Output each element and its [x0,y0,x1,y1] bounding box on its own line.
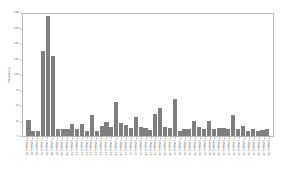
x-axis-tick-mark [62,137,63,139]
x-axis-tick-label: category 39 [212,140,215,155]
x-axis-tick-label: category 36 [197,140,200,155]
x-axis-tick-mark [180,137,181,139]
x-axis-tick-label: category 23 [133,140,136,155]
x-axis-tick-label: category 08 [59,140,62,155]
x-axis-tick-label: category 35 [192,140,195,155]
bar [119,123,123,136]
x-axis-tick-label: category 45 [241,140,244,155]
bar [260,130,264,136]
bar [221,128,225,136]
bar-chart-figure: Frequency 0255075100125150175200 categor… [0,0,289,169]
bar [56,129,60,136]
x-axis-tick-mark [131,137,132,139]
bar [95,131,99,136]
x-axis-tick-mark [32,137,33,139]
x-axis-tick: category 21 [124,137,128,169]
bar [265,129,269,136]
x-axis-tick-mark [259,137,260,139]
x-axis-tick-mark [185,137,186,139]
x-axis-tick-label: category 18 [109,140,112,155]
y-axis-tick-label: 50 [16,105,19,108]
bar [202,129,206,136]
x-axis-tick-mark [210,137,211,139]
bar [182,129,186,136]
x-axis-tick-mark [37,137,38,139]
x-axis-tick-label: category 30 [168,140,171,155]
bar [168,128,172,136]
x-axis-tick-label: category 26 [148,140,151,155]
bar [197,127,201,136]
x-axis-tick-container: category 01category 02category 03categor… [22,137,274,169]
x-axis-tick-label: category 01 [25,140,28,155]
bar [100,126,104,136]
x-axis-tick-label: category 07 [54,140,57,155]
x-axis-tick-mark [106,137,107,139]
bar [187,129,191,136]
bar [46,16,50,136]
x-axis-tick-label: category 12 [79,140,82,155]
x-axis-tick-mark [91,137,92,139]
bar [75,129,79,136]
x-axis-tick-mark [200,137,201,139]
x-axis-tick-mark [67,137,68,139]
x-axis-tick: category 46 [247,137,251,169]
bar [51,56,55,136]
x-axis-tick: category 48 [257,137,261,169]
bars-container [23,14,273,136]
y-axis-tick-label: 0 [17,136,19,139]
x-axis-tick-mark [175,137,176,139]
x-axis-tick: category 22 [129,137,133,169]
x-axis-tick: category 23 [134,137,138,169]
x-axis-tick-mark [27,137,28,139]
x-axis-tick: category 11 [75,137,79,169]
x-axis-tick-label: category 16 [99,140,102,155]
x-axis-tick-mark [72,137,73,139]
x-axis-tick-label: category 46 [246,140,249,155]
bar [109,127,113,136]
x-axis-tick-mark [205,137,206,139]
x-axis-tick-mark [254,137,255,139]
bar [104,122,108,136]
x-axis-tick-label: category 43 [232,140,235,155]
x-axis-tick-label: category 06 [50,140,53,155]
x-axis-tick-label: category 27 [153,140,156,155]
bar [256,131,260,136]
x-axis-tick-label: category 10 [69,140,72,155]
bar [236,129,240,136]
x-axis-tick-label: category 15 [94,140,97,155]
x-axis-tick-mark [126,137,127,139]
bar [207,121,211,136]
x-axis-tick-mark [121,137,122,139]
bar [61,129,65,136]
x-axis-tick-label: category 50 [266,140,269,155]
y-axis-tick-label: 75 [16,89,19,92]
bar [114,102,118,136]
x-axis-tick-label: category 37 [202,140,205,155]
x-axis-tick: category 49 [262,137,266,169]
bar [173,99,177,136]
x-axis-tick: category 37 [203,137,207,169]
bar [231,115,235,136]
bar [26,120,30,136]
bar [139,127,143,136]
bar [217,128,221,136]
bar [153,114,157,136]
bar [90,115,94,136]
x-axis-tick-label: category 05 [45,140,48,155]
x-axis-tick-label: category 11 [74,140,77,155]
x-axis-tick-mark [111,137,112,139]
bar [129,128,133,136]
bar [212,129,216,136]
x-axis-tick-label: category 04 [40,140,43,155]
bar [80,124,84,136]
x-axis-tick: category 47 [252,137,256,169]
x-axis-tick: category 36 [198,137,202,169]
y-axis-tick-label: 25 [16,120,19,123]
bar [158,108,162,136]
y-axis-tick-label: 100 [14,74,19,77]
x-axis-tick: category 12 [80,137,84,169]
x-axis-tick-label: category 44 [237,140,240,155]
x-axis-tick: category 10 [70,137,74,169]
x-axis-tick-mark [214,137,215,139]
x-axis-tick-label: category 34 [187,140,190,155]
